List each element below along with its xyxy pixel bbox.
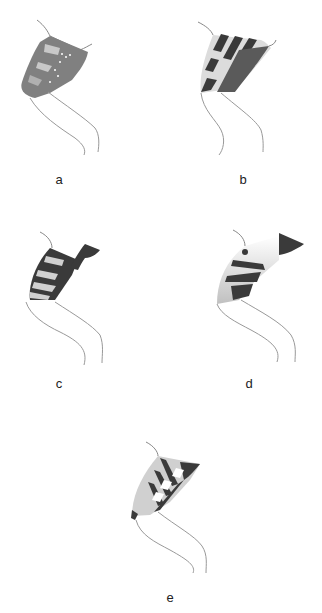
arm-illustration-a (0, 0, 161, 200)
panel-label-b: b (233, 172, 253, 187)
panel-label-e: e (160, 590, 180, 605)
arm-illustration-e (80, 420, 241, 613)
panel-label-a: a (49, 172, 69, 187)
panel-e: e (80, 420, 241, 613)
panel-a: a (0, 0, 161, 200)
arm-illustration-d (161, 200, 322, 400)
panel-b: b (161, 0, 322, 200)
panel-d: d (161, 200, 322, 400)
panel-c: c (0, 200, 161, 400)
panel-label-d: d (239, 376, 259, 391)
arm-illustration-b (161, 0, 322, 200)
arm-illustration-c (0, 200, 161, 400)
panel-label-c: c (49, 376, 69, 391)
